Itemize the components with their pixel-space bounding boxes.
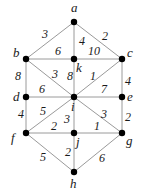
node-label-g: g [126,133,133,148]
node-label-e: e [127,89,133,104]
edge-a-b [26,22,74,59]
node-label-i: i [71,99,75,114]
edge-weight-d-f: 4 [18,107,24,121]
node-label-d: d [13,89,20,104]
edge-weight-f-h: 5 [40,150,46,164]
edge-g-h [74,133,122,172]
edge-weight-a-c: 2 [102,29,108,43]
node-c [119,56,125,62]
node-label-b: b [13,45,20,60]
node-g [119,130,125,136]
node-label-f: f [11,130,17,145]
edge-weight-j-h: 2 [65,145,71,159]
node-label-h: h [70,176,77,191]
edge-weight-b-k: 6 [55,44,61,58]
edge-weight-a-k: 4 [79,34,85,48]
node-label-c: c [127,45,133,60]
node-f [23,130,29,136]
edge-weight-a-b: 3 [41,27,48,41]
node-b [23,56,29,62]
node-label-k: k [76,60,82,75]
node-d [23,94,29,100]
edge-weight-f-i: 5 [40,104,46,118]
weighted-graph-diagram: 34261083814674533221526 abkcdiefjgh [0,0,143,191]
edge-weight-j-g: 1 [94,119,100,133]
edge-weight-f-j: 2 [51,119,57,133]
edge-weight-k-c: 10 [88,44,100,58]
edge-weight-i-e: 7 [101,82,108,96]
edge-weight-b-i: 3 [51,67,58,81]
edge-weight-d-i: 6 [39,82,45,96]
edge-weight-k-i: 8 [67,69,73,83]
edge-weight-i-j: 3 [63,112,70,126]
edge-weight-c-i: 1 [90,69,96,83]
edge-weight-b-d: 8 [15,69,21,83]
edge-weight-i-g: 3 [100,107,107,121]
edge-weight-e-g: 2 [125,110,131,124]
node-label-j: j [74,134,80,149]
edge-weight-g-h: 6 [99,151,105,165]
node-h [71,169,77,175]
node-e [119,94,125,100]
node-a [71,19,77,25]
edge-weight-c-e: 4 [125,74,131,88]
node-label-a: a [71,0,78,15]
